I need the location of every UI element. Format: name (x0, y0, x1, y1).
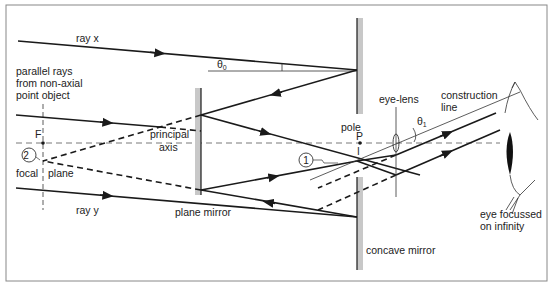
label-principal: principal (150, 128, 189, 140)
image-2-leader (36, 157, 40, 160)
ray-y-to-image (201, 161, 357, 190)
image-1-leader (313, 160, 338, 163)
plane-mirror (195, 88, 201, 195)
emergent-ray-lower-arrow (440, 153, 448, 157)
emergent-ray-upper-arrow (440, 133, 448, 136)
label-ray-x: ray x (76, 32, 100, 44)
label-eye-focussed: eye focussed (480, 208, 542, 220)
label-theta1: θ1 (417, 115, 427, 128)
ray-x-arrow-seg (150, 52, 160, 53)
label-plane: plane (48, 167, 74, 179)
label-axis: axis (159, 141, 178, 153)
label-I: I (357, 146, 360, 157)
eye-lashes-upper (512, 82, 538, 120)
label-on-infinity: on infinity (480, 220, 525, 232)
label-parallel-rays-2: from non-axial (16, 77, 83, 89)
label-parallel-rays-1: parallel rays (16, 65, 73, 77)
ray-x-reflected-arrow (275, 92, 282, 94)
label-parallel-rays-3: point object (16, 89, 70, 101)
label-theta0: θ0 (217, 58, 227, 71)
concave-mirror-lower (357, 177, 363, 270)
label-image-2: 2 (23, 150, 29, 161)
theta1-arc (413, 128, 416, 142)
label-image-1: 1 (303, 155, 309, 166)
eye-pupil (507, 132, 514, 175)
label-plane-mirror: plane mirror (175, 206, 232, 218)
ray-upper-incoming (16, 115, 160, 127)
ray-y-arrow (100, 195, 108, 196)
focal-point-F (41, 141, 45, 145)
label-construction: construction (441, 89, 498, 101)
label-ray-y: ray y (76, 204, 100, 216)
telescope-ray-diagram: ray x parallel rays from non-axial point… (0, 0, 553, 287)
concave-mirror-upper (357, 18, 363, 114)
ray-upper-arrow (100, 122, 108, 123)
ray-x-to-image-arrow (259, 131, 266, 133)
label-eye-lens: eye-lens (379, 93, 419, 105)
label-P: P (356, 130, 363, 142)
label-concave-mirror: concave mirror (366, 244, 436, 256)
label-line: line (441, 101, 458, 113)
label-focal: focal (16, 167, 38, 179)
label-F: F (35, 128, 41, 140)
ray-x-to-image (201, 115, 420, 175)
